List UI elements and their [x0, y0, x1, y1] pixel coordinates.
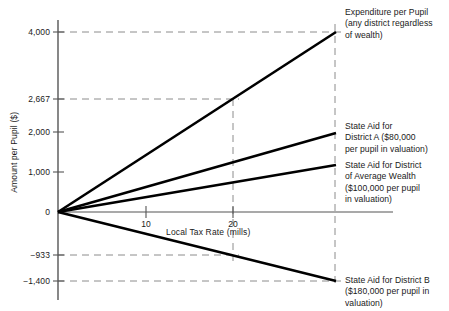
- y-tick-label-neg933: −933: [0, 251, 50, 260]
- chart-figure: 4,000 2,667 2,000 1,000 0 −933 −1,400 10…: [0, 0, 449, 311]
- annotation-average-wealth-line-3: ($100,000 per pupil: [345, 183, 449, 194]
- y-tick-label-0: 0: [0, 208, 50, 217]
- annotation-expenditure-line-1: Expenditure per Pupil: [345, 7, 449, 18]
- annotation-district-b-line-1: State Aid for District B: [345, 275, 449, 286]
- annotation-expenditure-line-2: (any district regardless: [345, 18, 449, 29]
- chart-plot-area: [0, 0, 449, 311]
- y-axis-title: Amount per Pupil ($): [10, 92, 19, 212]
- x-tick-label-10: 10: [126, 220, 166, 229]
- y-tick-label-4000: 4,000: [0, 28, 50, 37]
- annotation-district-a-line-1: State Aid for: [345, 121, 449, 132]
- y-tick-label-1000: 1,000: [0, 168, 50, 177]
- annotation-average-wealth-line-2: of Average Wealth: [345, 171, 449, 182]
- y-tick-label-2000: 2,000: [0, 128, 50, 137]
- x-axis-title: Local Tax Rate (mills): [166, 228, 250, 237]
- annotation-expenditure-per-pupil: Expenditure per Pupil (any district rega…: [345, 7, 449, 41]
- axes: [58, 20, 393, 300]
- annotation-district-b-line-3: valuation): [345, 298, 449, 309]
- annotation-average-wealth-line-4: in valuation): [345, 194, 449, 205]
- y-tick-label-neg1400: −1,400: [0, 277, 50, 286]
- annotation-state-aid-district-a: State Aid for District A ($80,000 per pu…: [345, 121, 449, 155]
- annotation-district-a-line-2: District A ($80,000: [345, 132, 449, 143]
- annotation-district-b-line-2: ($180,000 per pupil in: [345, 286, 449, 297]
- series-line-state-aid-district-b: [58, 212, 336, 281]
- annotation-district-a-line-3: per pupil in valuation): [345, 144, 449, 155]
- series-line-expenditure-per-pupil: [58, 32, 336, 212]
- annotation-state-aid-average-wealth: State Aid for District of Average Wealth…: [345, 160, 449, 206]
- annotation-state-aid-district-b: State Aid for District B ($180,000 per p…: [345, 275, 449, 309]
- y-tick-label-2667: 2,667: [0, 95, 50, 104]
- annotation-expenditure-line-3: of wealth): [345, 30, 449, 41]
- data-series: [58, 32, 336, 281]
- annotation-average-wealth-line-1: State Aid for District: [345, 160, 449, 171]
